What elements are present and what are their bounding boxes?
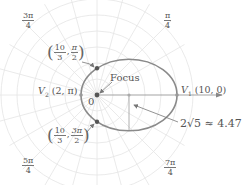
focus-label: Focus xyxy=(110,73,140,83)
v2-point xyxy=(79,93,83,97)
center-point xyxy=(127,93,130,96)
v1-label: V1 (10, 0) xyxy=(181,85,226,97)
top-point xyxy=(95,66,99,70)
angle-label-3pi-4: 3π4 xyxy=(22,11,34,30)
origin-label: 0 xyxy=(88,97,94,107)
angle-label-5pi-4: 5π4 xyxy=(22,156,34,175)
pole-point xyxy=(95,93,100,98)
bottom-point xyxy=(95,120,99,124)
angle-label-pi-4: π4 xyxy=(164,11,171,30)
minor-axis-label: 2√5 ≈ 4.47 xyxy=(180,118,242,129)
v1-point xyxy=(175,93,179,97)
top-point-label: ( 103 , π2 ) xyxy=(47,43,85,62)
angle-label-7pi-4: 7π4 xyxy=(164,158,176,177)
v2-label: V2 (2, π) xyxy=(38,86,77,98)
bottom-point-label: ( 103 , 3π2 ) xyxy=(47,126,90,145)
